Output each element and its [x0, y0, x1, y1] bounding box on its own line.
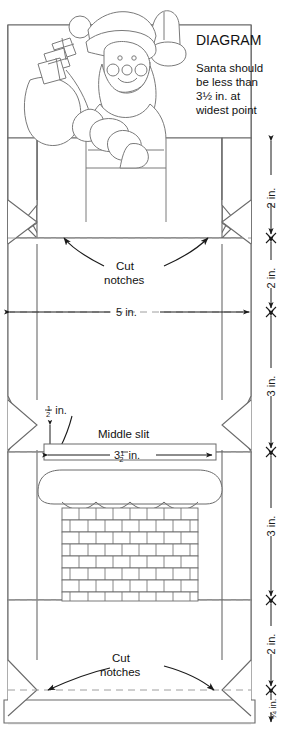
note-line-3: 3½ in. at: [196, 90, 241, 102]
santa-box-template-diagram: DIAGRAM Santa should be less than 3½ in.…: [0, 0, 293, 751]
brick-courses: [62, 508, 198, 601]
width-5in-label: 5 in.: [116, 306, 137, 318]
diagram-canvas: DIAGRAM Santa should be less than 3½ in.…: [0, 0, 293, 751]
vdim-label-1: 2 in.: [265, 188, 277, 209]
note-line-4: widest point: [195, 104, 258, 116]
note-line-2: be less than: [196, 76, 258, 88]
vdim-label-6: ¾ in.: [267, 699, 278, 720]
diagram-title: DIAGRAM: [196, 32, 261, 48]
vdim-label-5: 2 in.: [265, 634, 277, 655]
middle-slit-label: Middle slit: [98, 428, 150, 440]
cut-notches-top-label-1: Cut: [116, 260, 135, 272]
vdim-label-4: 3 in.: [265, 516, 277, 537]
brick-chimney-with-snow: [38, 470, 222, 601]
vdim-label-3: 3 in.: [265, 376, 277, 397]
vdim-label-2: 2 in.: [265, 268, 277, 289]
note-line-1: Santa should: [196, 62, 263, 74]
cut-notches-bottom-label-2: notches: [100, 666, 141, 678]
snow-cap: [38, 470, 222, 504]
cut-notches-bottom-label-1: Cut: [112, 652, 131, 664]
cut-notches-top-label-2: notches: [104, 274, 145, 286]
